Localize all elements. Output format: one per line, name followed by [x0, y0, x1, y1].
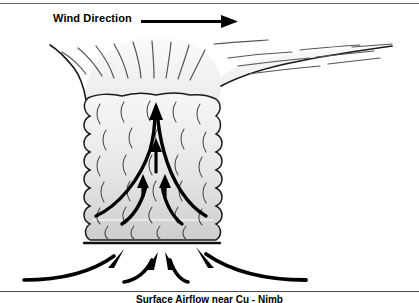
bottom-border-rule [0, 291, 419, 292]
surface-inflow-arrows [24, 247, 306, 282]
storm-cloud-diagram [0, 0, 419, 303]
figure-panel: Wind Direction [0, 0, 419, 303]
figure-caption: Surface Airflow near Cu - Nimb [0, 294, 419, 303]
